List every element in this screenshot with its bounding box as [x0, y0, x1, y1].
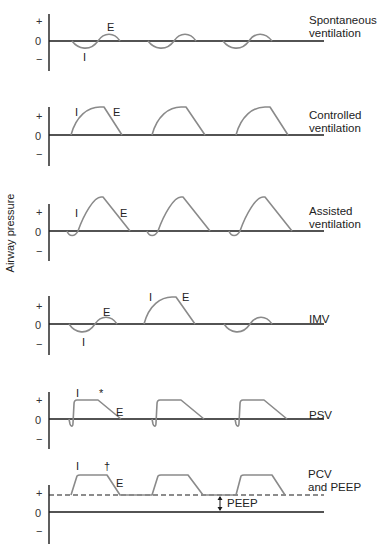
label-inspiration: I	[75, 207, 78, 219]
mode-label-psv: PSV	[309, 409, 332, 421]
controlled-waveform	[71, 107, 288, 135]
tick-minus: −	[36, 338, 42, 350]
label-dagger-marker: †	[104, 460, 110, 472]
mode-label-imv: IMV	[309, 313, 330, 325]
tick-zero: 0	[35, 414, 41, 426]
tick-minus: −	[36, 245, 42, 257]
tick-zero: 0	[35, 319, 41, 331]
tick-zero: 0	[35, 130, 41, 142]
imv-waveform	[69, 297, 272, 332]
panel-psv: + 0 − I * E PSV	[35, 387, 332, 449]
tick-plus: +	[36, 15, 42, 27]
tick-plus: +	[36, 394, 42, 406]
label-peep: PEEP	[227, 497, 258, 509]
label-inspiration: I	[76, 460, 79, 472]
panel-controlled: + 0 − I E Controlled ventilation	[35, 106, 361, 166]
label-inspiration: I	[83, 51, 86, 63]
label-inspiration: I	[75, 106, 78, 118]
tick-plus: +	[36, 300, 42, 312]
panel-pcv-peep: + 0 − I † E PEEP PCV and PEEP	[35, 460, 361, 544]
pcv-waveform	[71, 475, 285, 495]
peep-arrow-icon	[218, 496, 223, 511]
tick-minus: −	[36, 433, 42, 445]
label-expiration: E	[116, 406, 123, 418]
mode-label-pcv: PCV	[308, 468, 332, 480]
mode-label-assisted-2: ventilation	[309, 218, 361, 230]
label-mech-inspiration: I	[149, 291, 152, 303]
label-expiration: E	[120, 207, 127, 219]
label-expiration: E	[107, 21, 114, 33]
tick-plus: +	[36, 110, 42, 122]
panel-spontaneous: + 0 − I E Spontaneous ventilation	[35, 14, 377, 71]
mode-label-spontaneous-2: ventilation	[309, 27, 361, 39]
label-mech-expiration: E	[182, 291, 189, 303]
label-asterisk-marker: *	[99, 387, 104, 399]
tick-minus: −	[36, 53, 42, 65]
label-expiration: E	[113, 106, 120, 118]
tick-zero: 0	[35, 226, 41, 238]
tick-minus: −	[36, 525, 42, 537]
psv-waveform	[69, 400, 287, 426]
mode-label-spontaneous: Spontaneous	[309, 14, 377, 26]
panel-assisted: + 0 − I E Assisted ventilation	[35, 197, 361, 261]
tick-zero: 0	[35, 35, 41, 47]
label-spont-expiration: E	[103, 306, 110, 318]
ventilation-waveforms-diagram: Airway pressure + 0 − I E Spontaneous ve…	[0, 0, 379, 551]
tick-zero: 0	[35, 507, 41, 519]
y-axis-label: Airway pressure	[4, 194, 16, 273]
label-expiration: E	[116, 477, 123, 489]
mode-label-assisted: Assisted	[309, 205, 352, 217]
mode-label-controlled-2: ventilation	[309, 122, 361, 134]
assisted-waveform	[67, 197, 292, 236]
tick-plus: +	[36, 487, 42, 499]
tick-minus: −	[36, 148, 42, 160]
tick-plus: +	[36, 206, 42, 218]
mode-label-pcv-2: and PEEP	[308, 481, 361, 493]
panel-imv: + 0 − I E I E IMV	[35, 291, 330, 355]
mode-label-controlled: Controlled	[309, 109, 361, 121]
label-inspiration: I	[76, 387, 79, 399]
label-spont-inspiration: I	[82, 336, 85, 348]
